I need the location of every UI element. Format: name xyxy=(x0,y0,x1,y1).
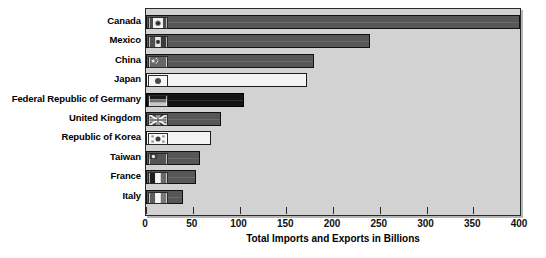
bar xyxy=(146,131,211,145)
flag-mexico-icon xyxy=(148,36,168,48)
bar xyxy=(146,190,183,204)
x-axis-tick xyxy=(380,207,381,214)
x-axis-tick-label: 250 xyxy=(370,218,387,229)
bar-row xyxy=(146,73,520,87)
bar-row xyxy=(146,151,520,165)
plot-area xyxy=(145,8,521,216)
x-axis-tick-label: 150 xyxy=(277,218,294,229)
bar-row xyxy=(146,93,520,107)
x-axis-tick xyxy=(427,207,428,214)
category-label-france: France xyxy=(0,171,141,181)
x-axis-tick xyxy=(333,207,334,214)
bar xyxy=(146,15,520,29)
bar-chart: CanadaMexicoChinaJapanFederal Republic o… xyxy=(0,0,546,258)
x-axis-tick-label: 300 xyxy=(417,218,434,229)
x-axis-tick xyxy=(520,207,521,214)
x-axis-tick xyxy=(286,207,287,214)
flag-canada-icon xyxy=(148,17,168,29)
flag-south-korea-icon xyxy=(148,133,168,145)
flag-germany-icon xyxy=(148,95,168,107)
flag-taiwan-icon xyxy=(148,153,168,165)
category-label-italy: Italy xyxy=(0,191,141,201)
value-axis-labels: 050100150200250300350400 xyxy=(0,218,546,232)
bar-row xyxy=(146,112,520,126)
bar-highlight-line xyxy=(147,41,369,42)
bar-row xyxy=(146,190,520,204)
flag-france-icon xyxy=(148,172,168,184)
x-axis-tick-label: 400 xyxy=(511,218,528,229)
category-label-china: China xyxy=(0,55,141,65)
flag-italy-icon xyxy=(148,192,168,204)
x-axis-tick-label: 0 xyxy=(142,218,148,229)
bar xyxy=(146,73,307,87)
x-axis-tick-label: 350 xyxy=(464,218,481,229)
x-axis-tick-label: 50 xyxy=(186,218,197,229)
bar xyxy=(146,112,221,126)
x-axis-title: Total Imports and Exports in Billions xyxy=(145,233,521,244)
bar xyxy=(146,34,370,48)
bar-row xyxy=(146,131,520,145)
flag-japan-icon xyxy=(148,75,168,87)
bar-row xyxy=(146,54,520,68)
bar-row xyxy=(146,15,520,29)
category-label-japan: Japan xyxy=(0,74,141,84)
flag-united-kingdom-icon xyxy=(148,114,168,126)
x-axis-tick-label: 100 xyxy=(230,218,247,229)
category-label-federal-republic-of-germany: Federal Republic of Germany xyxy=(0,94,141,104)
flag-china-icon xyxy=(148,56,168,68)
category-label-canada: Canada xyxy=(0,16,141,26)
category-label-united-kingdom: United Kingdom xyxy=(0,113,141,123)
x-axis-tick-label: 200 xyxy=(324,218,341,229)
category-label-republic-of-korea: Republic of Korea xyxy=(0,132,141,142)
category-label-mexico: Mexico xyxy=(0,35,141,45)
bar xyxy=(146,93,244,107)
bar-row xyxy=(146,34,520,48)
bar xyxy=(146,170,196,184)
x-axis-tick xyxy=(146,207,147,214)
category-axis-labels: CanadaMexicoChinaJapanFederal Republic o… xyxy=(0,8,141,208)
bar-row xyxy=(146,170,520,184)
bar-highlight-line xyxy=(147,61,313,62)
bar xyxy=(146,54,314,68)
bar xyxy=(146,151,200,165)
x-axis-tick xyxy=(193,207,194,214)
category-label-taiwan: Taiwan xyxy=(0,152,141,162)
bar-highlight-line xyxy=(147,22,519,23)
bar-highlight-line xyxy=(147,80,306,81)
x-axis-tick xyxy=(473,207,474,214)
x-axis-tick xyxy=(240,207,241,214)
